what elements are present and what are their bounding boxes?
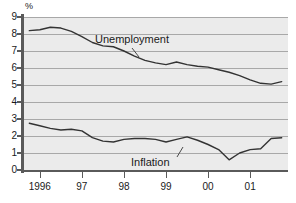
x-tick-mark [40, 171, 41, 178]
x-tick-mark [124, 171, 125, 178]
x-tick-mark [166, 171, 167, 178]
x-tick-label: 01 [245, 181, 256, 192]
chart-root: % 0123456789 Unemployment Inflation 1996… [0, 0, 296, 203]
x-tick-label: 98 [118, 181, 129, 192]
annotation-leader-lines [0, 0, 296, 203]
x-tick-label: 00 [203, 181, 214, 192]
x-tick-label: 97 [76, 181, 87, 192]
x-tick-mark [82, 171, 83, 178]
x-tick-mark [250, 171, 251, 178]
x-tick-label: 1996 [29, 181, 51, 192]
x-tick-label: 99 [160, 181, 171, 192]
x-tick-mark [208, 171, 209, 178]
